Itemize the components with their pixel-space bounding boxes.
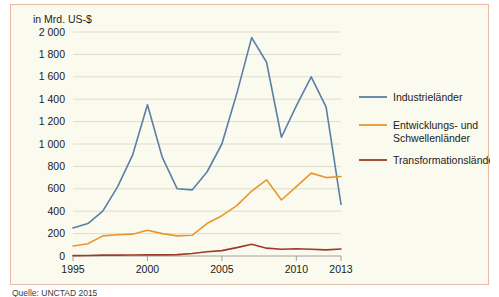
- chart-series-lines: [73, 38, 341, 256]
- legend-label: Schwellenländer: [393, 132, 471, 144]
- x-tick-label: 2005: [210, 263, 234, 275]
- y-tick-label: 1 000: [39, 138, 65, 150]
- chart-plot-area: 02004006008001 0001 2001 4001 6001 8002 …: [11, 5, 490, 286]
- y-tick-label: 400: [47, 205, 65, 217]
- y-tick-label: 200: [47, 227, 65, 239]
- y-tick-label: 2 000: [39, 26, 65, 38]
- chart-figure: 02004006008001 0001 2001 4001 6001 8002 …: [10, 4, 489, 285]
- x-tick-label: 2010: [285, 263, 309, 275]
- y-tick-label: 1 400: [39, 93, 65, 105]
- y-tick-label: 1 200: [39, 115, 65, 127]
- chart-svg: 02004006008001 0001 2001 4001 6001 8002 …: [11, 5, 490, 286]
- x-tick-label: 1995: [61, 263, 85, 275]
- y-tick-label: 600: [47, 182, 65, 194]
- series-line: [73, 38, 341, 228]
- series-line: [73, 244, 341, 255]
- series-line: [73, 173, 341, 246]
- legend-label: Entwicklungs- und: [393, 119, 478, 131]
- y-tick-label: 1 600: [39, 70, 65, 82]
- y-tick-label: 0: [59, 250, 65, 262]
- legend-label: Transformationsländer: [393, 154, 490, 166]
- y-tick-label: 1 800: [39, 48, 65, 60]
- chart-x-axis-labels: 19952000200520102013: [61, 256, 353, 275]
- x-tick-label: 2000: [136, 263, 160, 275]
- legend-label: Industrieländer: [393, 91, 463, 103]
- chart-source-note: Quelle: UNCTAD 2015: [12, 288, 97, 297]
- chart-gridlines: [73, 32, 341, 234]
- y-tick-label: 800: [47, 160, 65, 172]
- chart-axis-title: in Mrd. US-$: [33, 13, 92, 25]
- x-tick-label: 2013: [329, 263, 353, 275]
- chart-legend: IndustrieländerEntwicklungs- undSchwelle…: [359, 91, 490, 166]
- chart-y-axis-labels: 02004006008001 0001 2001 4001 6001 8002 …: [39, 26, 65, 262]
